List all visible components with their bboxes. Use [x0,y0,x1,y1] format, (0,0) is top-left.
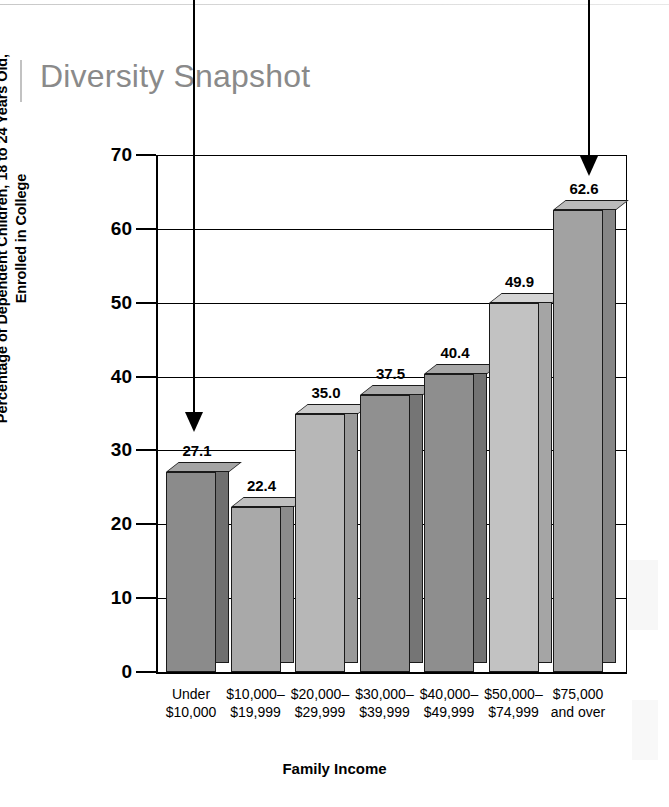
bar-side-face [410,386,423,663]
category-line-1: $75,000 [553,686,604,702]
bar-5: 40.4 [424,374,474,672]
category-line-2: $29,999 [295,704,346,720]
category-line-2: $10,000 [166,704,217,720]
bar-front-face [360,395,410,672]
y-axis-tick-label: 60 [92,218,132,240]
bar-value-label: 49.9 [505,273,534,290]
bar-4: 37.5 [360,395,410,672]
y-axis-tick-label: 70 [92,144,132,166]
y-axis-tick-mark [136,154,156,156]
bar-side-face [345,405,358,664]
y-axis-tick-label: 0 [92,661,132,683]
category-line-2: $19,999 [230,704,281,720]
bar-side-face [539,294,552,663]
scan-artifact [628,560,658,630]
category-line-2: $49,999 [424,704,475,720]
bar-side-face [603,201,616,663]
scan-artifact [632,700,658,760]
bar-front-face [489,303,539,672]
bar-value-label: 40.4 [440,344,469,361]
y-axis-tick-mark [136,597,156,599]
y-axis-tick-mark [136,523,156,525]
bar-value-label: 37.5 [376,365,405,382]
category-line-1: $20,000– [291,686,349,702]
y-axis-tick-label: 30 [92,439,132,461]
bar-front-face [295,414,345,673]
bar-6: 49.9 [489,303,539,672]
y-axis-tick-label: 20 [92,513,132,535]
bar-front-face [424,374,474,672]
category-line-1: $10,000– [226,686,284,702]
bar-value-label: 62.6 [569,180,598,197]
x-axis-label: Family Income [0,760,669,777]
category-line-1: $30,000– [355,686,413,702]
category-line-2: $39,999 [359,704,410,720]
category-line-2: $74,999 [488,704,539,720]
y-axis-tick-label: 50 [92,292,132,314]
bar-front-face [166,472,216,672]
bar-front-face [553,210,603,672]
arrow-shaft [588,0,590,156]
bar-side-face [281,498,294,663]
bar-1: 27.1 [166,472,216,672]
category-line-1: $40,000– [420,686,478,702]
bar-top-face [553,200,629,210]
x-axis-line [156,672,627,674]
bar-side-face [474,365,487,663]
bar-value-label: 22.4 [247,477,276,494]
bar-front-face [231,507,281,672]
page-top-rule [0,4,669,5]
y-axis-label: Percentage of Dependent Children, 18 to … [0,0,31,509]
bar-7: 62.6 [553,210,603,672]
page-title: Diversity Snapshot [40,58,310,95]
category-line-1: $50,000– [484,686,542,702]
y-axis-tick-mark [136,671,156,673]
bar-3: 35.0 [295,414,345,673]
bar-value-label: 35.0 [311,384,340,401]
bar-top-face [166,462,242,472]
bar-2: 22.4 [231,507,281,672]
y-axis-tick-label: 10 [92,587,132,609]
bar-side-face [216,463,229,663]
x-axis-category-7: $75,000and over [536,686,620,721]
bar-value-label: 27.1 [182,442,211,459]
arrow-shaft [193,0,195,412]
category-line-2: and over [551,704,605,720]
y-axis-tick-mark [136,302,156,304]
y-axis-tick-mark [136,376,156,378]
y-axis-tick-label: 40 [92,366,132,388]
arrow-head-icon [185,412,203,432]
y-axis-tick-mark [136,228,156,230]
y-axis-tick-mark [136,449,156,451]
category-line-1: Under [172,686,210,702]
arrow-head-icon [580,156,598,176]
